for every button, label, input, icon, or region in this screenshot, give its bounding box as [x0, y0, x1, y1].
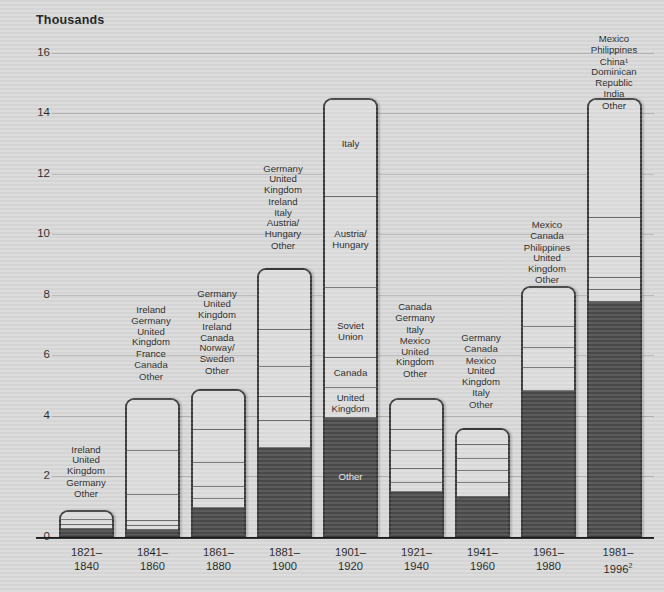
callout-line: Mexico [381, 335, 449, 346]
x-label-line: 1881– [257, 545, 312, 559]
segment-germany [193, 391, 244, 430]
segment-ireland [193, 463, 244, 487]
callout-line: Other [118, 371, 184, 382]
x-label-line: 1860 [125, 559, 180, 573]
x-label-line: 1960 [455, 559, 510, 573]
bar-1841-1860[interactable] [125, 398, 180, 537]
callout-line: Other [184, 365, 250, 376]
bar-callout-1921-1940: Canada Germany Italy Mexico United Kingd… [381, 301, 449, 379]
x-label-line: 1861– [191, 545, 246, 559]
bar-1921-1940[interactable] [389, 398, 444, 537]
segment-mexico [523, 288, 574, 327]
callout-line: Sweden [184, 354, 250, 365]
segment-germany [127, 451, 178, 495]
callout-line: Kingdom [184, 310, 250, 321]
segment-united-kingdom [457, 471, 508, 483]
segment-canada [193, 487, 244, 499]
callout-line: Italy [447, 387, 515, 398]
y-tick-0: 0 [24, 530, 50, 542]
x-label-1961-1980: 1961– 1980 [521, 545, 576, 573]
segment-ireland [259, 367, 310, 397]
segment-united-kingdom [259, 330, 310, 367]
bar-1961-1980[interactable] [521, 286, 576, 537]
segment-ireland [61, 512, 112, 520]
bar-1861-1880[interactable] [191, 389, 246, 537]
callout-line: Other [55, 488, 117, 499]
segment-soviet-union [325, 288, 376, 358]
segment-canada [325, 358, 376, 388]
segment-other [391, 492, 442, 537]
bar-1821-1840[interactable] [59, 510, 114, 537]
callout-line: India [578, 88, 650, 99]
callout-line: Other [513, 274, 581, 285]
segment-italy [457, 483, 508, 497]
callout-line: Ireland [118, 304, 184, 315]
bar-1981-1996[interactable] [587, 98, 642, 537]
x-label-1981-1996: 1981– 19962 [587, 545, 649, 576]
segment-germany [457, 430, 508, 445]
segment-dominican-republic [589, 278, 640, 290]
callout-line: Canada [447, 343, 515, 354]
segment-other [589, 302, 640, 537]
segment-philippines [589, 218, 640, 257]
chart-title: Thousands [36, 13, 104, 27]
callout-line: Kingdom [250, 185, 316, 196]
x-label-1921-1940: 1921– 1940 [389, 545, 444, 573]
segment-united-kingdom [325, 388, 376, 418]
bar-callout-1941-1960: Germany Canada Mexico United Kingdom Ita… [447, 332, 515, 410]
x-axis-line [36, 537, 654, 539]
segment-italy [259, 397, 310, 421]
callout-line: Other [447, 399, 515, 410]
x-label-line: 1920 [323, 559, 378, 573]
bar-callout-1841-1860: Ireland Germany United Kingdom France Ca… [118, 304, 184, 382]
bar-1941-1960[interactable] [455, 428, 510, 537]
y-tick-10: 10 [24, 227, 50, 239]
x-label-footnote-marker: 2 [628, 562, 632, 569]
y-tick-14: 14 [24, 106, 50, 118]
callout-line: Kingdom [55, 466, 117, 477]
gridline-16 [52, 53, 654, 54]
x-label-1841-1860: 1841– 1860 [125, 545, 180, 573]
bar-callout-1821-1840: Ireland United Kingdom Germany Other [55, 444, 117, 499]
x-label-1881-1900: 1881– 1900 [257, 545, 312, 573]
x-label-line: 1981– [587, 545, 649, 559]
segment-china [589, 257, 640, 278]
chart-plot-area: Thousands 16 14 12 10 8 6 4 2 0 Ireland … [0, 0, 664, 592]
x-label-line: 1980 [521, 559, 576, 573]
segment-other [127, 530, 178, 537]
x-label-line: 19962 [587, 559, 649, 576]
segment-united-kingdom [523, 368, 574, 391]
segment-germany [391, 430, 442, 451]
callout-line: Canada [118, 359, 184, 370]
segment-norway-sweden [193, 499, 244, 508]
segment-mexico [589, 100, 640, 218]
bar-callout-1881-1900: Germany United Kingdom Ireland Italy Aus… [250, 163, 316, 251]
callout-line: Other [578, 100, 650, 111]
x-label-line: 1940 [389, 559, 444, 573]
segment-united-kingdom [391, 483, 442, 492]
x-label-line: 1821– [59, 545, 114, 559]
bar-callout-1961-1980: Mexico Canada Philippines United Kingdom… [513, 219, 581, 286]
segment-other [259, 448, 310, 537]
callout-line: Canada [381, 301, 449, 312]
x-label-line: 1900 [257, 559, 312, 573]
callout-line: Kingdom [447, 377, 515, 388]
callout-line: Kingdom [118, 337, 184, 348]
callout-line: Canada [513, 230, 581, 241]
callout-line: Ireland [184, 321, 250, 332]
bar-callout-1861-1880: Germany United Kingdom Ireland Canada No… [184, 288, 250, 376]
x-label-line: 1880 [191, 559, 246, 573]
bar-1881-1900[interactable] [257, 268, 312, 537]
callout-line: Italy [381, 324, 449, 335]
callout-line: Kingdom [513, 264, 581, 275]
x-label-line: 1961– [521, 545, 576, 559]
y-tick-2: 2 [24, 469, 50, 481]
callout-line: Ireland [250, 196, 316, 207]
callout-line: France [118, 348, 184, 359]
y-tick-4: 4 [24, 409, 50, 421]
segment-ireland [127, 400, 178, 451]
segment-philippines [523, 348, 574, 368]
segment-other [523, 391, 574, 537]
segment-italy [391, 451, 442, 469]
bar-1901-1920[interactable] [323, 98, 378, 537]
